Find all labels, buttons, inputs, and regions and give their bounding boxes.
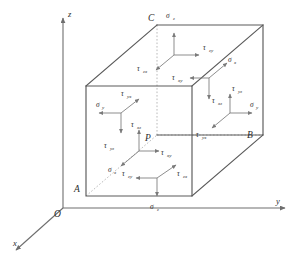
tau-zx-top-arrow — [156, 55, 174, 70]
stress-element-figure: z y x O C A B P σ z τ zy τ zx σ z τ zy — [0, 0, 298, 266]
svg-text:x: x — [113, 170, 117, 175]
svg-text:τ: τ — [172, 73, 175, 82]
label-sigma-x-far: σ x — [228, 55, 237, 65]
svg-text:τ: τ — [104, 141, 107, 150]
svg-text:τ: τ — [177, 169, 180, 178]
svg-text:xy: xy — [166, 153, 172, 158]
svg-text:σ: σ — [166, 11, 170, 20]
svg-text:τ: τ — [131, 120, 134, 129]
depth-edge-bottom-right — [192, 135, 263, 196]
svg-text:yz: yz — [109, 146, 114, 151]
label-tau-zy-top: τ zy — [203, 43, 214, 53]
tau-zx-bottom-arrow — [157, 165, 176, 178]
svg-text:τ: τ — [232, 84, 235, 93]
cube-visible-edges — [86, 25, 263, 196]
svg-text:σ: σ — [108, 165, 112, 174]
label-sigma-y-left: σ y — [96, 100, 105, 110]
sigma-x-near-arrow — [121, 151, 139, 166]
label-tau-zy-bottom: τ zy — [122, 169, 133, 179]
svg-text:xz: xz — [136, 125, 141, 130]
svg-text:σ: σ — [250, 100, 254, 109]
label-tau-zx-bottom: τ zx — [177, 169, 188, 179]
svg-text:zy: zy — [127, 174, 133, 179]
depth-edge-top-left — [86, 25, 157, 86]
point-C-label: C — [148, 13, 155, 23]
label-tau-yx-right: τ yx — [196, 130, 207, 140]
tau-yx-right-arrow — [212, 113, 230, 128]
label-sigma-z-top: σ z — [166, 11, 175, 21]
svg-text:τ: τ — [212, 96, 215, 105]
svg-text:τ: τ — [196, 130, 199, 139]
x-axis-label: x — [12, 238, 17, 248]
svg-text:σ: σ — [96, 100, 100, 109]
far-x-face-stress-group — [190, 63, 227, 99]
svg-text:zy: zy — [208, 48, 214, 53]
svg-text:τ: τ — [121, 89, 124, 98]
top-face-stress-group — [156, 33, 199, 70]
svg-text:zx: zx — [142, 69, 148, 74]
point-A-label: A — [73, 184, 80, 194]
label-tau-yz-left: τ yz — [104, 141, 114, 151]
figure-canvas: z y x O C A B P σ z τ zy τ zx σ z τ zy — [0, 0, 298, 266]
y-axis-label: y — [275, 196, 280, 206]
svg-text:τ: τ — [203, 43, 206, 52]
svg-text:yx: yx — [126, 94, 132, 99]
label-tau-xy-far: τ xy — [172, 73, 183, 83]
svg-text:z: z — [156, 207, 159, 212]
back-right-face-stress-group — [212, 94, 252, 128]
svg-text:τ: τ — [122, 169, 125, 178]
svg-text:xy: xy — [177, 78, 183, 83]
label-sigma-z-bottom: σ z — [150, 202, 159, 212]
label-tau-yx-left: τ yx — [121, 89, 132, 99]
svg-text:y: y — [255, 105, 259, 110]
cube-hidden-edges — [86, 25, 263, 196]
label-tau-yz-right: τ yz — [232, 84, 242, 94]
svg-text:yx: yx — [201, 135, 207, 140]
svg-text:τ: τ — [161, 148, 164, 157]
origin-label: O — [54, 209, 61, 219]
svg-text:y: y — [101, 105, 105, 110]
label-sigma-y-right: σ y — [250, 100, 259, 110]
svg-text:σ: σ — [150, 202, 154, 211]
sigma-x-far-arrow — [209, 63, 227, 78]
svg-text:zx: zx — [182, 174, 188, 179]
tau-yx-left-arrow — [121, 99, 139, 113]
bottom-face-stress-group — [136, 165, 176, 196]
z-axis-label: z — [67, 9, 72, 19]
svg-text:x: x — [233, 60, 237, 65]
svg-text:yz: yz — [237, 89, 242, 94]
point-B-label: B — [247, 130, 253, 140]
point-P-label: P — [144, 133, 151, 143]
svg-text:z: z — [172, 16, 175, 21]
svg-text:xz: xz — [217, 101, 222, 106]
svg-text:τ: τ — [137, 64, 140, 73]
label-sigma-x-near: σ x — [108, 165, 117, 175]
label-tau-xz-near: τ xz — [131, 120, 141, 130]
label-tau-xy-near: τ xy — [161, 148, 172, 158]
label-tau-zx-top: τ zx — [137, 64, 148, 74]
label-tau-xz-far: τ xz — [212, 96, 222, 106]
svg-text:σ: σ — [228, 55, 232, 64]
